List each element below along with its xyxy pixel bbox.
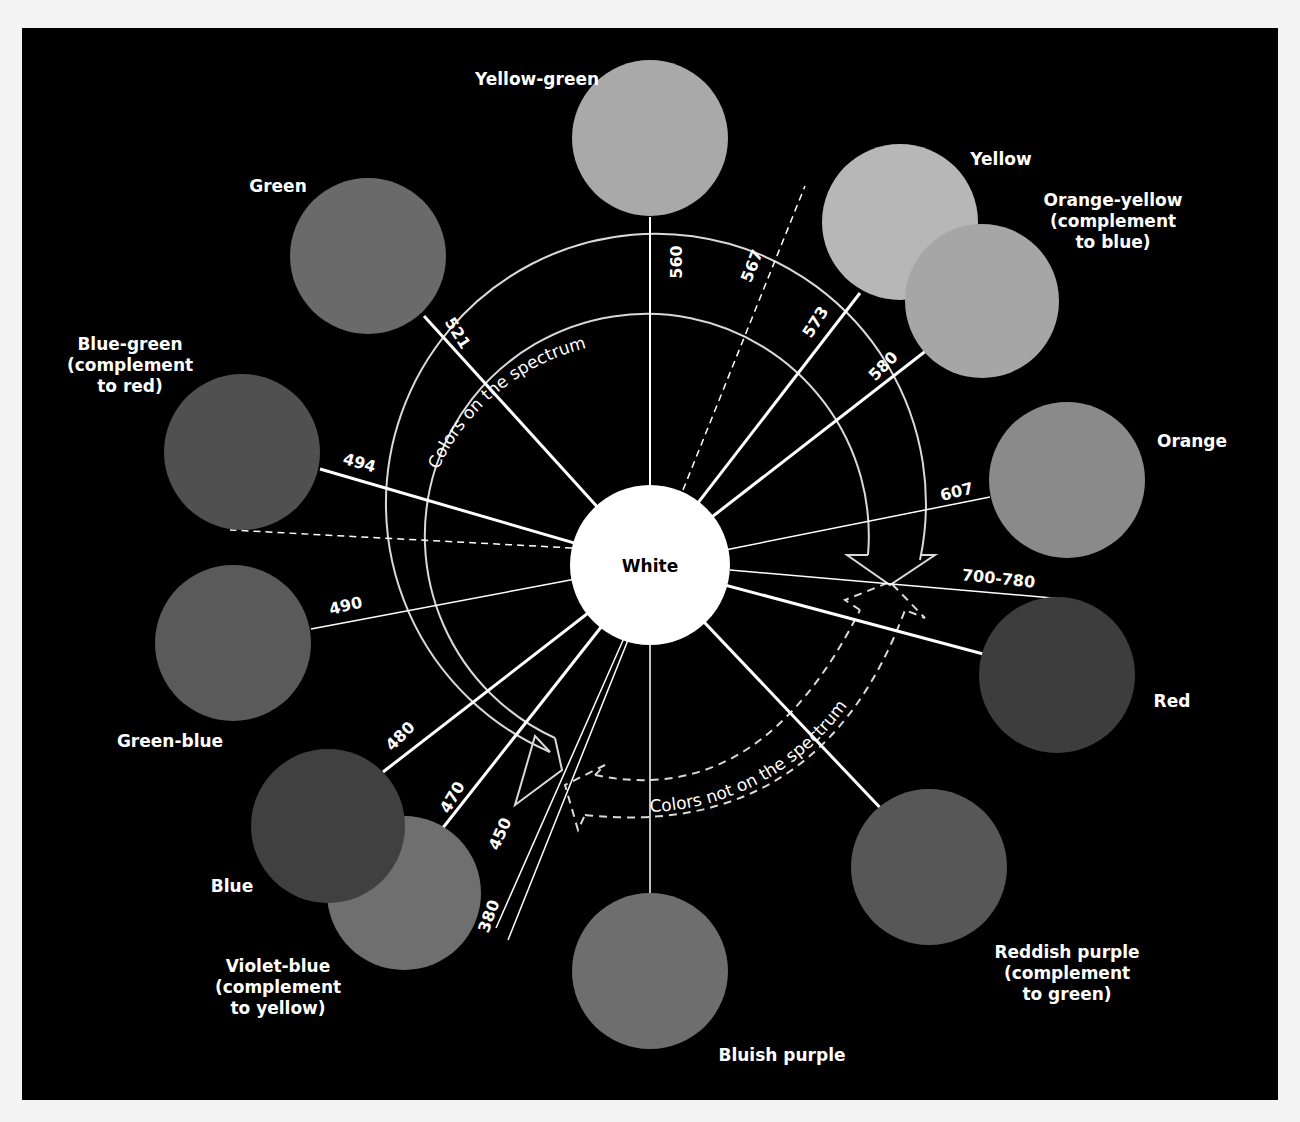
wavelength-red: 700-780 (961, 565, 1036, 592)
label-orange-yellow: Orange-yellow(complementto blue) (1044, 190, 1183, 252)
label-yellow: Yellow (969, 149, 1032, 169)
line-dashed-blue-green (230, 530, 572, 548)
circle-green (290, 178, 446, 334)
wavelength-yellow-green: 560 (667, 245, 686, 278)
circle-reddish-purple (851, 789, 1007, 945)
white-label: White (622, 556, 678, 576)
label-red: Red (1154, 691, 1191, 711)
on-spectrum-label: Colors on the spectrum (424, 332, 588, 472)
wavelength-blue-green: 494 (341, 449, 378, 476)
wavelength-green-blue: 490 (327, 592, 364, 619)
label-violet-blue: Violet-blue(complementto yellow) (215, 956, 341, 1018)
color-circle-diagram: Colors on the spectrum Colors not on the… (0, 0, 1300, 1122)
circle-orange-yellow (905, 224, 1059, 378)
white-center: White (570, 485, 730, 645)
circle-orange (989, 402, 1145, 558)
wavelength-line-450: 450 (485, 815, 516, 853)
label-reddish-purple: Reddish purple(complementto green) (994, 942, 1139, 1004)
label-orange: Orange (1157, 431, 1227, 451)
not-on-spectrum-label: Colors not on the spectrum (649, 696, 850, 816)
label-bluish-purple: Bluish purple (718, 1045, 845, 1065)
label-yellow-green: Yellow-green (474, 69, 599, 89)
wavelength-violet-blue: 470 (436, 778, 469, 816)
circle-blue (251, 749, 405, 903)
label-blue: Blue (211, 876, 253, 896)
circle-blue-green (164, 374, 320, 530)
wavelength-line-567: 567 (737, 247, 767, 285)
circle-bluish-purple (572, 893, 728, 1049)
label-green-blue: Green-blue (117, 731, 223, 751)
line-380 (508, 640, 628, 940)
label-blue-green: Blue-green(complementto red) (67, 334, 193, 396)
circle-green-blue (155, 565, 311, 721)
label-green: Green (249, 176, 307, 196)
circle-red (979, 597, 1135, 753)
